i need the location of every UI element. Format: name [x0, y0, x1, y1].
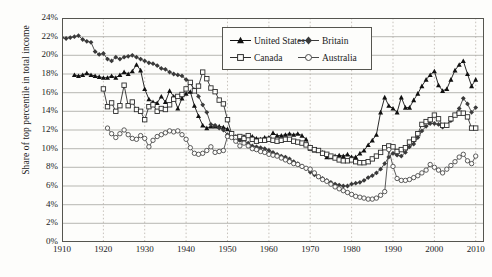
data-point: [188, 146, 192, 150]
data-point: [407, 140, 411, 144]
data-point: [234, 139, 238, 143]
data-point: [209, 86, 213, 90]
legend-item-australia[interactable]: Australia: [298, 52, 366, 63]
data-point: [445, 167, 449, 171]
data-point: [436, 117, 440, 121]
data-point: [180, 92, 184, 96]
legend-item-canada[interactable]: Canada: [230, 52, 298, 63]
chart-figure: Share of top percentile in total income …: [0, 0, 492, 277]
data-point: [192, 89, 196, 93]
data-point: [412, 137, 416, 141]
data-point: [118, 104, 122, 108]
data-point: [130, 100, 134, 104]
data-point: [196, 84, 200, 88]
data-point: [461, 58, 466, 63]
data-point: [341, 189, 345, 193]
data-point: [316, 175, 320, 179]
legend-item-britain[interactable]: Britain: [298, 35, 366, 46]
data-point: [287, 137, 291, 141]
data-point: [420, 171, 424, 175]
data-point: [362, 196, 366, 200]
data-point: [130, 136, 134, 140]
data-point: [391, 106, 396, 111]
data-point: [448, 77, 453, 82]
y-tick-label: 12%: [42, 124, 59, 134]
data-point: [130, 69, 135, 74]
data-point: [180, 133, 184, 137]
data-point: [395, 176, 399, 180]
data-point: [201, 70, 205, 74]
data-point: [374, 196, 378, 200]
y-tick-label: 18%: [42, 68, 59, 78]
data-point: [366, 175, 371, 180]
data-point: [217, 149, 221, 153]
data-point: [354, 160, 358, 164]
data-point: [469, 161, 473, 165]
data-point: [204, 126, 209, 131]
data-point: [126, 54, 131, 59]
data-point: [420, 122, 424, 126]
x-tick-label: 1950: [218, 244, 236, 254]
x-tick-label: 1990: [384, 244, 402, 254]
data-point: [176, 129, 180, 133]
data-point: [275, 139, 279, 143]
legend-item-united-states[interactable]: United States: [230, 35, 298, 46]
data-point: [312, 171, 316, 175]
data-point: [134, 137, 138, 141]
data-point: [151, 138, 155, 142]
data-point: [287, 131, 292, 136]
data-point: [436, 168, 440, 172]
y-tick-label: 16%: [42, 87, 59, 97]
data-point: [386, 103, 391, 108]
data-point: [105, 126, 109, 130]
data-point: [184, 87, 188, 91]
data-point: [175, 106, 180, 111]
x-tick-label: 1930: [136, 244, 154, 254]
y-tick-label: 8%: [46, 161, 58, 171]
data-point: [142, 86, 147, 91]
data-point: [399, 95, 404, 100]
data-point: [175, 73, 180, 78]
legend-row: United States Britain: [230, 32, 366, 49]
y-tick-label: 6%: [46, 180, 58, 190]
data-point: [469, 84, 474, 89]
data-point: [424, 168, 428, 172]
legend-label-australia: Australia: [322, 53, 357, 63]
y-tick-label: 2%: [46, 217, 58, 227]
data-point: [440, 171, 444, 175]
data-point: [122, 70, 127, 75]
data-point: [383, 189, 387, 193]
data-point: [113, 75, 118, 80]
data-point: [378, 150, 382, 154]
data-point: [329, 154, 333, 158]
data-point: [142, 59, 147, 64]
data-point: [416, 174, 420, 178]
data-point: [457, 106, 462, 111]
data-point: [382, 95, 387, 100]
data-point: [138, 57, 143, 62]
data-point: [217, 98, 221, 102]
data-point: [295, 131, 300, 136]
data-point: [453, 113, 457, 117]
data-point: [163, 67, 168, 72]
data-point: [242, 136, 246, 140]
data-point: [122, 128, 126, 132]
data-point: [84, 71, 89, 76]
data-point: [138, 109, 142, 113]
data-point: [457, 155, 461, 159]
data-point: [329, 182, 333, 186]
data-point: [196, 94, 201, 99]
data-point: [453, 160, 457, 164]
legend-label-britain: Britain: [322, 36, 348, 46]
data-point: [221, 102, 225, 106]
y-tick-label: 4%: [46, 199, 58, 209]
data-point: [147, 60, 152, 65]
data-point: [192, 103, 197, 108]
data-point: [171, 72, 176, 77]
data-point: [308, 146, 312, 150]
y-tick-label: 14%: [42, 105, 59, 115]
data-point: [436, 83, 441, 88]
data-point: [300, 133, 305, 138]
data-point: [126, 133, 130, 137]
data-point: [391, 164, 395, 168]
